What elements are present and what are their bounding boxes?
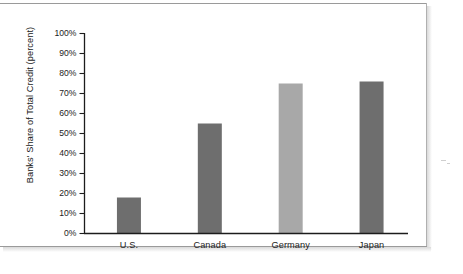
y-tick-label: 70% bbox=[35, 88, 77, 98]
bar-us bbox=[117, 198, 141, 234]
y-tick-label: 30% bbox=[35, 168, 77, 178]
y-tick-label: 40% bbox=[35, 148, 77, 158]
page-shadow-right bbox=[427, 6, 432, 250]
y-tick-label: 90% bbox=[35, 48, 77, 58]
x-tick-label: U.S. bbox=[84, 240, 174, 250]
bar-series bbox=[117, 82, 384, 234]
y-tick-label: 80% bbox=[35, 68, 77, 78]
x-tick-label: Japan bbox=[327, 240, 417, 250]
y-axis-title: Banks' Share of Total Credit (percent) bbox=[25, 0, 35, 215]
y-tick-label: 100% bbox=[35, 28, 77, 38]
y-tick-label: 10% bbox=[35, 208, 77, 218]
bar-japan bbox=[360, 82, 384, 234]
bar-germany bbox=[279, 84, 303, 234]
y-axis-ticks bbox=[80, 34, 85, 234]
scanned-page-frame: Banks' Share of Total Credit (percent) 0… bbox=[0, 0, 463, 274]
scan-speck bbox=[441, 160, 446, 161]
y-tick-label: 50% bbox=[35, 128, 77, 138]
y-tick-label: 20% bbox=[35, 188, 77, 198]
y-tick-label: 0% bbox=[35, 228, 77, 238]
x-tick-label: Germany bbox=[246, 240, 336, 250]
bar-chart: Banks' Share of Total Credit (percent) 0… bbox=[0, 0, 427, 247]
x-tick-label: Canada bbox=[165, 240, 255, 250]
scan-speck bbox=[447, 163, 450, 164]
bar-canada bbox=[198, 124, 222, 234]
y-tick-label: 60% bbox=[35, 108, 77, 118]
